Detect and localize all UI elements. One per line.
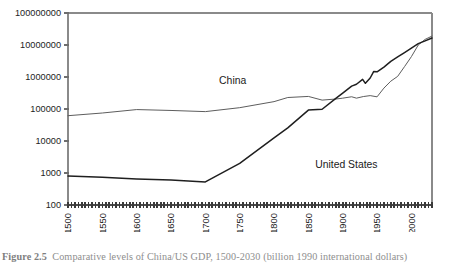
series-label-united-states: United States (315, 159, 377, 170)
gdp-comparison-chart: 1001000100001000001000000100000001000000… (0, 0, 449, 232)
y-axis-tick-label: 1000 (41, 168, 61, 178)
figure-caption-prefix: Figure 2.5 (2, 252, 47, 262)
y-axis-tick-label: 100000 (30, 104, 61, 114)
figure-caption: Figure 2.5 Comparative levels of China/U… (0, 252, 449, 266)
x-axis-tick-label: 1500 (62, 213, 73, 232)
x-axis-tick-label: 1900 (337, 213, 348, 232)
y-axis-tick-label: 100000000 (15, 8, 61, 18)
x-axis-tick-label: 1700 (200, 213, 211, 232)
x-axis-tick-label: 1850 (303, 213, 314, 232)
y-axis-tick-labels: 1001000100001000001000000100000001000000… (15, 8, 61, 210)
y-axis-tick-label: 100 (46, 200, 61, 210)
y-axis-tick-label: 1000000 (25, 72, 61, 82)
x-axis-tick-label: 2000 (406, 213, 417, 232)
figure-caption-text: Figure 2.5 Comparative levels of China/U… (2, 252, 407, 262)
x-axis-tick-labels: 1500155016001650170017501800185019001950… (62, 213, 416, 232)
x-axis-tick-label: 1950 (371, 213, 382, 232)
y-axis-tick-label: 10000 (35, 136, 61, 146)
x-axis-minor-ticks (68, 202, 432, 208)
x-axis-tick-label: 1800 (268, 213, 279, 232)
figure-caption-body: Comparative levels of China/US GDP, 1500… (52, 252, 407, 262)
x-axis-tick-label: 1750 (234, 213, 245, 232)
plot-background (68, 13, 432, 205)
x-axis-tick-label: 1650 (165, 213, 176, 232)
series-label-china: China (219, 75, 246, 86)
x-axis-tick-label: 1600 (131, 213, 142, 232)
x-axis-tick-label: 1550 (97, 213, 108, 232)
y-axis-tick-label: 10000000 (20, 40, 61, 50)
figure-container: 1001000100001000001000000100000001000000… (0, 0, 449, 266)
